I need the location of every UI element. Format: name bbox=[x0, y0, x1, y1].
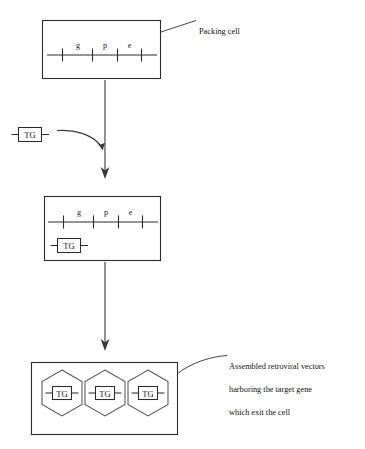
vector-transgene-label: TG bbox=[56, 389, 67, 399]
stage-packing-cell-with-transgene: g p e TG bbox=[45, 197, 161, 261]
stage-assembled-vectors: TG TG TG bbox=[32, 356, 228, 435]
assembled-vectors-annotation-line-2: harboring the target gene bbox=[229, 384, 325, 395]
gene-label-e: e bbox=[129, 208, 133, 217]
assembled-vectors-annotation: Assembled retroviral vectors harboring t… bbox=[229, 350, 325, 430]
gene-label-g: g bbox=[77, 208, 81, 217]
retroviral-vector-diagram: g p e TG bbox=[0, 0, 365, 449]
assembled-vectors-annotation-line-1: Assembled retroviral vectors bbox=[229, 361, 325, 372]
gene-label-p: p bbox=[104, 208, 108, 217]
flow-arrow-2 bbox=[101, 262, 110, 351]
vector-transgene-label: TG bbox=[142, 389, 153, 399]
assembled-vectors-annotation-line-3: which exit the cell bbox=[229, 407, 325, 418]
gene-label-e: e bbox=[128, 41, 132, 50]
assembled-vectors-leader-line bbox=[177, 356, 227, 375]
transgene-entry-arrow-curve bbox=[57, 130, 100, 145]
transgene-label: TG bbox=[24, 130, 35, 140]
gene-label-p: p bbox=[103, 41, 107, 50]
transgene-entry-arrow bbox=[57, 130, 105, 150]
packing-cell-box bbox=[43, 21, 161, 79]
packing-cell-annotation: Packing cell bbox=[199, 15, 240, 49]
vector-transgene-label: TG bbox=[99, 389, 110, 399]
free-transgene-element: TG bbox=[12, 128, 50, 142]
stage-packing-cell-initial: g p e bbox=[43, 21, 197, 79]
packing-cell-leader-line bbox=[161, 21, 196, 33]
transgene-entry-arrow-head bbox=[96, 141, 105, 150]
packing-cell-annotation-line: Packing cell bbox=[199, 26, 240, 37]
gene-label-g: g bbox=[76, 41, 80, 50]
transgene-label: TG bbox=[63, 241, 74, 251]
flow-arrow-1 bbox=[101, 80, 110, 179]
